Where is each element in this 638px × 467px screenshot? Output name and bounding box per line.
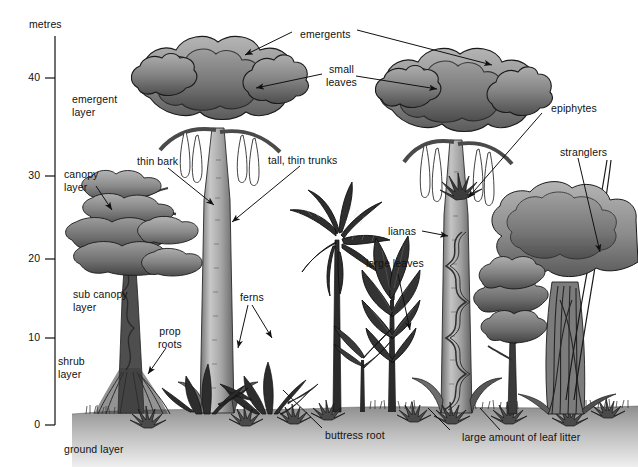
small-tree-right (474, 257, 548, 414)
leader-ferns-right (252, 305, 272, 338)
leader-ferns-left (238, 305, 248, 348)
subcanopy-tree-mid (334, 326, 392, 412)
callout-label-epiphytes: epiphytes (551, 102, 597, 115)
callout-label-large-leaves: large leaves (366, 257, 424, 270)
callout-label-prop-roots: prop roots (158, 325, 182, 350)
callout-label-buttress-root: buttress root (325, 429, 385, 442)
axis-tick-30: 30 (18, 169, 40, 181)
callout-label-lianas: lianas (388, 225, 416, 238)
callout-label-thin-bark: thin bark (137, 155, 178, 168)
layer-label-canopy-layer: canopy layer (64, 168, 98, 193)
axis-tick-10: 10 (18, 331, 40, 343)
callout-label-small-leaves: small leaves (326, 63, 357, 88)
axis-unit-label: metres (29, 18, 62, 31)
callout-label-tall-thin-trunks: tall, thin trunks (268, 154, 337, 167)
scale-axis (45, 36, 55, 425)
axis-tick-0: 0 (18, 418, 40, 430)
callout-label-emergents: emergents (300, 28, 351, 41)
layer-label-shrub-layer: shrub layer (58, 355, 85, 380)
callout-label-leaf-litter: large amount of leaf litter (462, 431, 580, 444)
axis-tick-40: 40 (18, 71, 40, 83)
rainforest-diagram: metres 40 30 20 10 0 emergent layer cano… (0, 0, 638, 467)
callout-label-ferns: ferns (240, 291, 264, 304)
layer-label-emergent-layer: emergent layer (72, 93, 117, 118)
layer-label-sub-canopy-layer: sub canopy layer (73, 288, 128, 313)
layer-label-ground-layer: ground layer (64, 443, 124, 456)
diagram-canvas (0, 0, 638, 467)
callout-label-stranglers: stranglers (560, 146, 607, 159)
axis-tick-20: 20 (18, 252, 40, 264)
leader-prop-roots (148, 348, 166, 374)
